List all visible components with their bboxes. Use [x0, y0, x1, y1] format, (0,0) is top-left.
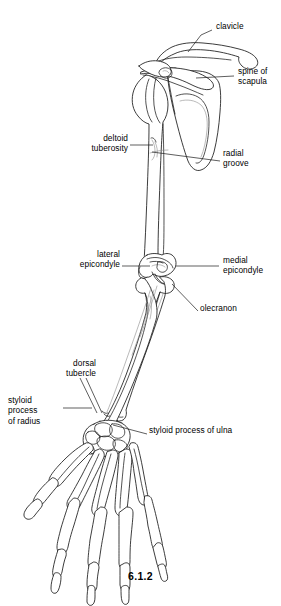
label-lateral-epicondyle: lateral epicondyle: [28, 249, 120, 270]
label-spine-of-scapula: spine of scapula: [238, 66, 281, 87]
humerus-bone: [132, 75, 176, 284]
radius-bone: [99, 278, 157, 436]
metacarpal-bones: [49, 443, 148, 517]
figure-caption: 6.1.2: [0, 570, 281, 582]
label-dorsal-tubercle: dorsal tubercle: [22, 358, 96, 379]
label-clavicle: clavicle: [216, 21, 278, 31]
label-styloid-process-of-ulna: styloid process of ulna: [149, 425, 275, 435]
interosseous-lines: [107, 286, 157, 412]
label-medial-epicondyle: medial epicondyle: [223, 255, 281, 276]
anatomy-figure: clavicle spine of scapula deltoid tubero…: [0, 0, 281, 606]
label-deltoid-tuberosity: deltoid tuberosity: [42, 133, 128, 154]
label-olecranon: olecranon: [200, 303, 252, 313]
leader-olecranon: [172, 284, 198, 311]
label-radial-groove: radial groove: [223, 148, 275, 169]
label-styloid-process-of-radius: styloid process of radius: [8, 395, 64, 426]
